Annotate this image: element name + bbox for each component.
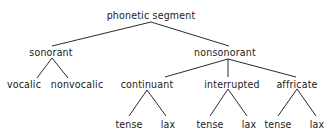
node-affricate-tense: tense <box>264 118 291 130</box>
edge-interrupted-tense <box>210 89 228 116</box>
edge-affricate-lax <box>297 89 316 116</box>
edge-sonorant-vocalic <box>37 58 52 78</box>
edge-interrupted-lax <box>228 89 247 116</box>
edge-nonsonorant-continuant <box>165 59 228 77</box>
node-phonetic-segment: phonetic segment <box>107 9 196 21</box>
node-interrupted: interrupted <box>204 78 259 90</box>
edge-sonorant-nonvocalic <box>52 58 68 78</box>
node-interrupted-lax: lax <box>242 118 257 130</box>
edge-affricate-tense <box>278 89 297 116</box>
node-interrupted-tense: tense <box>196 118 223 130</box>
node-sonorant: sonorant <box>29 46 72 58</box>
edge-nonsonorant-affricate <box>228 59 296 77</box>
node-affricate-lax: lax <box>310 118 325 130</box>
edge-root-nonsonorant <box>151 22 229 46</box>
edge-continuant-lax <box>147 90 166 116</box>
node-vocalic: vocalic <box>7 78 41 90</box>
node-nonsonorant: nonsonorant <box>194 46 256 58</box>
node-continuant: continuant <box>121 78 174 90</box>
edge-continuant-tense <box>129 90 147 116</box>
node-nonvocalic: nonvocalic <box>51 78 104 90</box>
phonetic-segment-tree-diagram: phonetic segment sonorant nonsonorant vo… <box>0 0 336 133</box>
node-continuant-lax: lax <box>161 118 176 130</box>
node-continuant-tense: tense <box>115 118 142 130</box>
node-affricate: affricate <box>276 78 317 90</box>
edge-root-sonorant <box>52 22 151 46</box>
